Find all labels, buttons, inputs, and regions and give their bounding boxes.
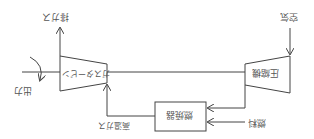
hot-gas-line [107, 85, 155, 116]
compressor-label: 圧縮機 [252, 68, 279, 78]
fuel-label: 燃料 [248, 118, 266, 128]
turbine-label: ガスタービン [62, 68, 110, 78]
rotation-arrow-icon [30, 57, 41, 80]
exhaust-label: 排ガス [42, 12, 69, 22]
output-label: 出力 [14, 86, 32, 96]
combustor-label: 燃焼器 [166, 110, 193, 120]
air-label: 空気 [280, 12, 298, 22]
compressed-air-line [208, 85, 245, 108]
hot-gas-label: 高温ガス [98, 120, 130, 130]
